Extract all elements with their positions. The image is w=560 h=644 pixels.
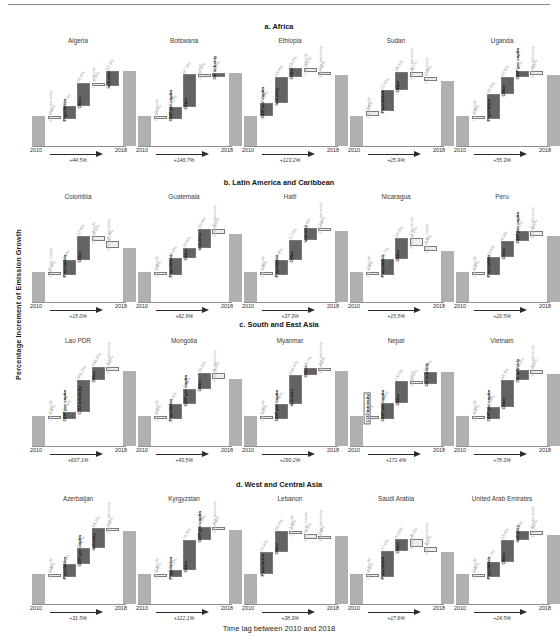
driver-label: Other bbox=[183, 97, 187, 109]
panel-ethiopia[interactable]: EthiopiaGDP per capita27.6%Industry53.4%… bbox=[238, 36, 342, 168]
driver-percent: 158.4% bbox=[91, 353, 102, 368]
panel-title: Peru bbox=[450, 192, 554, 202]
panel-colombia[interactable]: ColombiaGDP per capita-0.3%Population8.4… bbox=[26, 192, 130, 324]
bar-start-2010 bbox=[456, 416, 469, 446]
panel-myanmar[interactable]: MyanmarOil subsidy-1.3%GDP per capita89.… bbox=[238, 336, 342, 468]
total-growth-label: +290.2% bbox=[238, 457, 342, 463]
driver-label: Other bbox=[395, 542, 399, 554]
driver-label: Other bbox=[183, 560, 187, 572]
waterfall-plot: Oil subsidy-1.1%GDP per capita84.6%CO2 i… bbox=[26, 346, 130, 446]
year-axis-row: 20102018+31.5% bbox=[26, 604, 130, 626]
year-start: 2010 bbox=[348, 147, 360, 153]
waterfall-plot: Oil subsidy-1.4%GDP per capita21.4%Other… bbox=[450, 346, 554, 446]
driver-label: Industry bbox=[92, 533, 96, 550]
driver-label: Other bbox=[501, 553, 505, 565]
total-growth-label: +38.3% bbox=[238, 615, 342, 621]
y-axis-label: Percentage Increment of Emission Growth bbox=[14, 195, 23, 415]
driver-label: Industry bbox=[289, 389, 293, 406]
year-axis-row: 20102018+55.3% bbox=[450, 146, 554, 168]
panel-title: Lao PDR bbox=[26, 336, 130, 346]
driver-percent: 12.8% bbox=[76, 224, 86, 237]
panel-title: Kyrgyzstan bbox=[132, 494, 236, 504]
year-end: 2018 bbox=[221, 147, 233, 153]
driver-percent: 19.4% bbox=[76, 70, 86, 83]
panel-vietnam[interactable]: VietnamOil subsidy-1.4%GDP per capita21.… bbox=[450, 336, 554, 468]
year-end: 2018 bbox=[115, 147, 127, 153]
driver-percent: 38.7% bbox=[303, 356, 313, 369]
driver-percent: 396.2% bbox=[76, 366, 87, 381]
waterfall-plot: Oil subsidy5.4%Population21.4%Other18.1%… bbox=[344, 46, 448, 146]
bar-end-2018 bbox=[547, 75, 560, 146]
year-end: 2018 bbox=[433, 447, 445, 453]
driver-label: Other bbox=[77, 97, 81, 109]
total-growth-label: +24.5% bbox=[450, 615, 554, 621]
year-axis-row: 20102018+146.7% bbox=[132, 146, 236, 168]
bar-start-2010 bbox=[350, 574, 363, 604]
bar-start-2010 bbox=[350, 272, 363, 302]
panel-peru[interactable]: PeruOil subsidy-1.2%Population10.4%Other… bbox=[450, 192, 554, 324]
driver-label: Other bbox=[501, 247, 505, 259]
waterfall-plot: Oil subsidy-0.6%Population16.4%GDP per c… bbox=[132, 346, 236, 446]
total-growth-label: +43.5% bbox=[132, 457, 236, 463]
year-start: 2010 bbox=[454, 605, 466, 611]
bar-start-2010 bbox=[456, 574, 469, 604]
driver-label: Population bbox=[260, 554, 264, 577]
bar-start-2010 bbox=[244, 272, 257, 302]
panel-nicaragua[interactable]: NicaraguaOil subsidy-1.4%Population11.7%… bbox=[344, 192, 448, 324]
driver-label: Population bbox=[487, 255, 491, 278]
year-end: 2018 bbox=[433, 147, 445, 153]
year-start: 2010 bbox=[136, 147, 148, 153]
year-end: 2018 bbox=[115, 447, 127, 453]
year-start: 2010 bbox=[30, 447, 42, 453]
panel-title: Uganda bbox=[450, 36, 554, 46]
year-end: 2018 bbox=[539, 605, 551, 611]
driver-percent: 18.1% bbox=[394, 59, 404, 72]
driver-label: Population bbox=[381, 557, 385, 580]
driver-label: Other bbox=[395, 80, 399, 92]
panel-guatemala[interactable]: GuatemalaOil subsidy-0.8%Population18.0%… bbox=[132, 192, 236, 324]
waterfall-plot: GDP per capita27.6%Industry53.4%Other18.… bbox=[238, 46, 342, 146]
total-growth-label: +123.2% bbox=[238, 157, 342, 163]
waterfall-plot: Oil subsidy-1.2%Population10.4%Other8.9%… bbox=[450, 202, 554, 302]
panel-botswana[interactable]: BotswanaOil intensity-0.7%GDP per capita… bbox=[132, 36, 236, 168]
bar-start-2010 bbox=[244, 416, 257, 446]
driver-percent: 10.7% bbox=[486, 549, 496, 562]
total-growth-label: +55.3% bbox=[450, 157, 554, 163]
panel-united-arab-emirates[interactable]: United Arab EmiratesOil subsidy-0.6%Popu… bbox=[450, 494, 554, 626]
driver-label: Other bbox=[198, 379, 202, 391]
waterfall-plot: Oil subsidy-1.4%Population11.7%Other14.3… bbox=[344, 202, 448, 302]
driver-percent: 48.3% bbox=[500, 367, 510, 380]
panel-title: United Arab Emirates bbox=[450, 494, 554, 504]
year-axis-row: 20102018+17.6% bbox=[344, 604, 448, 626]
panel-azerbaijan[interactable]: AzerbaijanOil subsidy-0.8%Population9.5%… bbox=[26, 494, 130, 626]
panel-algeria[interactable]: AlgeriaEnergy intensity-0.4%Population10… bbox=[26, 36, 130, 168]
year-end: 2018 bbox=[539, 303, 551, 309]
panel-nepal[interactable]: NepalCO2 intensity-1.6%GDP per capita56.… bbox=[344, 336, 448, 468]
year-end: 2018 bbox=[433, 303, 445, 309]
year-start: 2010 bbox=[136, 447, 148, 453]
bar-start-2010 bbox=[32, 574, 45, 604]
driver-label: Other bbox=[183, 249, 187, 261]
panel-uganda[interactable]: UgandaOil subsidy-0.9%Population34.1%Oth… bbox=[450, 36, 554, 168]
panel-saudi-arabia[interactable]: Saudi ArabiaOil subsidy-1.6%Population27… bbox=[344, 494, 448, 626]
panel-lebanon[interactable]: LebanonPopulation21.4%Other20.0%Oil subs… bbox=[238, 494, 342, 626]
panel-sudan[interactable]: SudanOil subsidy5.4%Population21.4%Other… bbox=[344, 36, 448, 168]
driver-percent: 17.0% bbox=[288, 227, 298, 240]
panel-title: Algeria bbox=[26, 36, 130, 46]
waterfall-plot: Oil subsidy-1.6%Population27.0%Other12.6… bbox=[344, 504, 448, 604]
panel-lao-pdr[interactable]: Lao PDROil subsidy-1.1%GDP per capita84.… bbox=[26, 336, 130, 468]
driver-percent: 16.4% bbox=[168, 392, 178, 405]
panel-title: Nepal bbox=[344, 336, 448, 346]
bar-start-2010 bbox=[138, 272, 151, 302]
driver-percent: 10.4% bbox=[486, 244, 496, 257]
panel-mongolia[interactable]: MongoliaOil subsidy-0.6%Population16.4%G… bbox=[132, 336, 236, 468]
year-start: 2010 bbox=[348, 303, 360, 309]
panel-haiti[interactable]: HaitiOil subsidy-1.8%Population12.8%Othe… bbox=[238, 192, 342, 324]
year-start: 2010 bbox=[30, 605, 42, 611]
year-start: 2010 bbox=[30, 303, 42, 309]
driver-label: Population bbox=[169, 255, 173, 278]
driver-label: Other bbox=[289, 251, 293, 263]
year-axis-row: 20102018+122.1% bbox=[132, 604, 236, 626]
panel-title: Mongolia bbox=[132, 336, 236, 346]
panel-kyrgyzstan[interactable]: KyrgyzstanOil subsidy-1.5%Population19.2… bbox=[132, 494, 236, 626]
